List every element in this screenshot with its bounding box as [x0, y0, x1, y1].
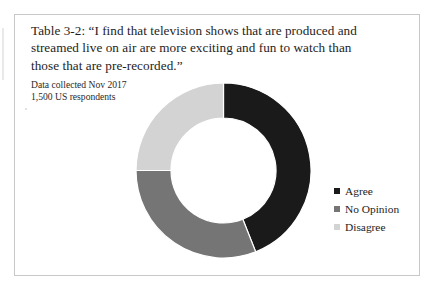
caption-line: those that are pre-recorded.” — [31, 57, 353, 74]
legend-item-disagree[interactable]: Disagree — [334, 218, 418, 236]
legend-label-agree: Agree — [345, 185, 373, 197]
legend-swatch-agree — [334, 188, 340, 194]
legend-label-no-opinion: No Opinion — [345, 203, 399, 215]
scan-artifact — [25, 108, 27, 110]
figure-root: Table 3-2: “I find that television shows… — [0, 0, 438, 293]
donut-chart-svg — [136, 83, 311, 258]
donut-chart — [136, 83, 311, 258]
legend-item-no-opinion[interactable]: No Opinion — [334, 200, 418, 218]
legend-label-disagree: Disagree — [345, 221, 385, 233]
legend-swatch-disagree — [334, 224, 340, 230]
legend-item-agree[interactable]: Agree — [334, 182, 418, 200]
legend-swatch-no-opinion — [334, 206, 340, 212]
chart-legend: Agree No Opinion Disagree — [334, 182, 418, 236]
caption-line: Table 3-2: “I find that television shows… — [31, 22, 353, 39]
figure-caption: Table 3-2: “I find that television shows… — [31, 22, 353, 74]
donut-slice-group — [136, 83, 311, 258]
scan-artifact — [2, 28, 4, 80]
donut-slice-disagree[interactable] — [136, 83, 224, 171]
caption-line: streamed live on air are more exciting a… — [31, 39, 353, 56]
donut-slice-no-opinion[interactable] — [136, 171, 256, 259]
